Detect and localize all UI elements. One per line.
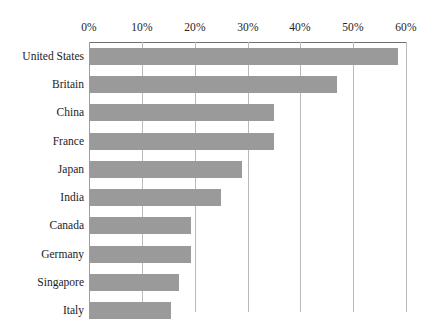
x-tick-label-0: 0% xyxy=(81,21,97,33)
bar-china xyxy=(89,104,274,121)
x-tick-label-30: 30% xyxy=(237,21,259,33)
y-label-japan: Japan xyxy=(0,163,84,175)
gridline-60 xyxy=(406,42,407,312)
x-tick-label-50: 50% xyxy=(342,21,364,33)
bar-united-states xyxy=(89,48,398,65)
x-tick-label-40: 40% xyxy=(289,21,311,33)
gridline-50 xyxy=(353,42,354,312)
y-axis-category-labels: United States Britain China France Japan… xyxy=(0,42,84,312)
y-label-germany: Germany xyxy=(0,248,84,260)
y-label-india: India xyxy=(0,191,84,203)
x-tick-label-10: 10% xyxy=(131,21,153,33)
bar-india xyxy=(89,189,221,206)
x-tick-label-20: 20% xyxy=(184,21,206,33)
y-label-italy: Italy xyxy=(0,304,84,316)
bar-britain xyxy=(89,76,337,93)
y-label-canada: Canada xyxy=(0,219,84,231)
bar-france xyxy=(89,133,274,150)
y-label-france: France xyxy=(0,135,84,147)
y-label-china: China xyxy=(0,106,84,118)
y-label-singapore: Singapore xyxy=(0,276,84,288)
bar-italy xyxy=(89,302,171,319)
bar-germany xyxy=(89,246,191,263)
y-label-britain: Britain xyxy=(0,78,84,90)
bar-singapore xyxy=(89,274,179,291)
bar-japan xyxy=(89,161,242,178)
plot-area xyxy=(89,42,406,312)
bar-chart: 0% 10% 20% 30% 40% 50% 60% United States… xyxy=(0,0,438,328)
bar-canada xyxy=(89,217,191,234)
y-label-united-states: United States xyxy=(0,50,84,62)
x-tick-label-60: 60% xyxy=(395,21,417,33)
